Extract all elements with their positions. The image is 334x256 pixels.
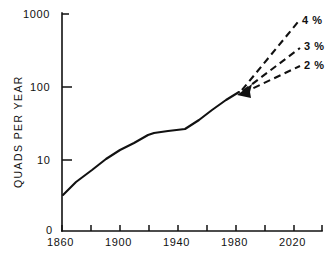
x-tick-label-1940: 1940 [163, 236, 190, 248]
y-tick-label-100: 100 [30, 81, 50, 93]
annotation-4-percent: 4 % [302, 14, 322, 26]
annotation-2-percent: 2 % [304, 59, 324, 71]
y-tick-label-10: 10 [37, 154, 50, 166]
y-tick-label-1000: 1000 [23, 8, 50, 20]
y-axis-title: QUADS PER YEAR [12, 75, 24, 188]
x-tick-label-1860: 1860 [47, 236, 74, 248]
x-tick-label-1900: 1900 [105, 236, 132, 248]
historical-energy-curve [63, 92, 239, 195]
energy-projection-chart: 1000 100 10 0 QUADS PER YEAR 1860 1900 1… [0, 0, 334, 256]
y-tick-label-0: 0 [46, 224, 53, 236]
x-tick-label-1980: 1980 [221, 236, 248, 248]
x-tick-label-2020: 2020 [279, 236, 306, 248]
chart-plot-area [0, 0, 334, 256]
annotation-3-percent: 3 % [304, 40, 324, 52]
